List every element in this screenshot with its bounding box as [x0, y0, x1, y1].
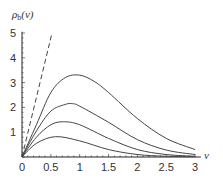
plot-area: 00.511.522.5312345ρb(ν)ν	[0, 0, 223, 179]
x-tick-label: 2.5	[159, 161, 174, 173]
x-tick-label: 1.5	[101, 161, 116, 173]
chart: 00.511.522.5312345ρb(ν)ν	[0, 0, 223, 179]
y-tick-label: 5	[10, 27, 16, 39]
x-tick-label: 3	[192, 161, 198, 173]
x-tick-label: 2	[134, 161, 140, 173]
x-tick-label: 0	[19, 161, 25, 173]
y-tick-label: 3	[10, 77, 16, 89]
y-tick-label: 2	[10, 101, 16, 113]
y-axis-title: ρb(ν)	[11, 8, 34, 22]
x-tick-label: 1	[77, 161, 83, 173]
curve-2	[22, 103, 195, 157]
y-tick-label: 1	[10, 126, 16, 138]
curve-1	[22, 75, 195, 157]
x-tick-label: 0.5	[43, 161, 58, 173]
x-axis-title: ν	[204, 149, 209, 161]
y-tick-label: 4	[10, 52, 16, 64]
